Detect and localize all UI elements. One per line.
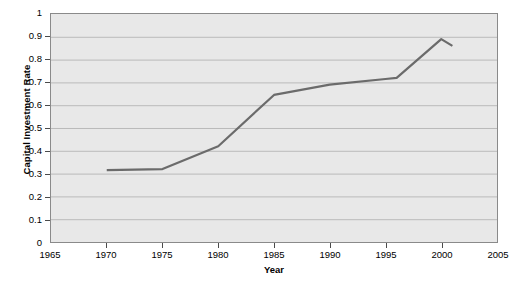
x-tick-mark: [218, 243, 219, 248]
x-tick-mark: [386, 243, 387, 248]
chart-figure: Capital Investment Rate 00.10.20.30.40.5…: [0, 0, 524, 283]
x-tick-label: 1970: [81, 250, 131, 260]
plot-area: [50, 13, 498, 243]
x-tick-label: 1965: [25, 250, 75, 260]
y-axis-title: Capital Investment Rate: [21, 20, 32, 220]
x-tick-mark: [330, 243, 331, 248]
x-tick-mark: [274, 243, 275, 248]
x-tick-mark: [106, 243, 107, 248]
x-tick-label: 1980: [193, 250, 243, 260]
x-tick-label: 1985: [249, 250, 299, 260]
x-tick-label: 1995: [361, 250, 411, 260]
x-tick-mark: [442, 243, 443, 248]
y-tick-label: 1: [2, 8, 42, 18]
x-tick-label: 1990: [305, 250, 355, 260]
x-tick-label: 2000: [417, 250, 467, 260]
series-line: [107, 39, 453, 170]
x-tick-label: 1975: [137, 250, 187, 260]
x-axis-title: Year: [50, 264, 498, 275]
data-line-series: [51, 14, 497, 242]
x-tick-mark: [162, 243, 163, 248]
x-tick-label: 2005: [473, 250, 523, 260]
y-tick-label: 0: [2, 238, 42, 248]
